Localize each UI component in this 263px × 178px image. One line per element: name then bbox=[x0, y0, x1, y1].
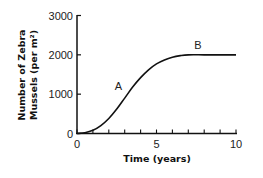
curve-annotations: AB bbox=[115, 39, 202, 92]
population-curve bbox=[77, 55, 236, 134]
x-axis-title: Time (years) bbox=[123, 153, 190, 164]
y-axis-title-line1: Number of Zebra bbox=[16, 29, 27, 120]
annotation-b: B bbox=[194, 39, 201, 51]
annotation-a: A bbox=[115, 80, 123, 92]
y-tick-label: 2000 bbox=[49, 49, 73, 61]
y-axis-title: Number of Zebra Mussels (per m²) bbox=[16, 29, 39, 120]
x-tick-label: 10 bbox=[230, 138, 242, 150]
y-tick-label: 3000 bbox=[49, 10, 73, 22]
y-axis-title-line2: Mussels (per m²) bbox=[28, 30, 39, 120]
y-tick-label: 0 bbox=[67, 128, 73, 140]
x-axis: 0510 bbox=[74, 130, 242, 150]
logistic-growth-chart: 0100020003000 0510 AB Time (years) Numbe… bbox=[0, 0, 263, 178]
y-axis: 0100020003000 bbox=[49, 10, 81, 140]
x-tick-label: 5 bbox=[153, 138, 159, 150]
y-tick-label: 1000 bbox=[49, 88, 73, 100]
x-tick-label: 0 bbox=[74, 138, 80, 150]
